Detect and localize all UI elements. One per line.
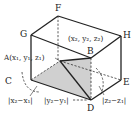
label-dy: |y₂−y₁| xyxy=(44,96,69,105)
label-G: G xyxy=(20,29,27,39)
label-A-coordinates: A(x₁, y₁, z₁) xyxy=(3,53,45,62)
label-dx: |x₂−x₁| xyxy=(8,96,33,105)
label-F: F xyxy=(55,3,61,13)
label-H: H xyxy=(123,30,131,40)
label-dz: |z₂−z₁| xyxy=(102,96,126,105)
label-B: B xyxy=(87,46,94,56)
leader-dx xyxy=(30,86,37,96)
edge-G-F xyxy=(31,16,58,35)
shaded-region xyxy=(31,58,91,100)
box-diagram: F G H B C E D A(x₁, y₁, z₁) (x₂, y₂, z₂)… xyxy=(0,0,138,117)
edge-F-H xyxy=(58,16,121,36)
leader-A xyxy=(55,58,60,61)
label-D: D xyxy=(87,103,94,113)
label-C: C xyxy=(5,76,12,86)
label-B-coordinates: (x₂, y₂, z₂) xyxy=(68,34,103,43)
label-E: E xyxy=(123,77,130,87)
